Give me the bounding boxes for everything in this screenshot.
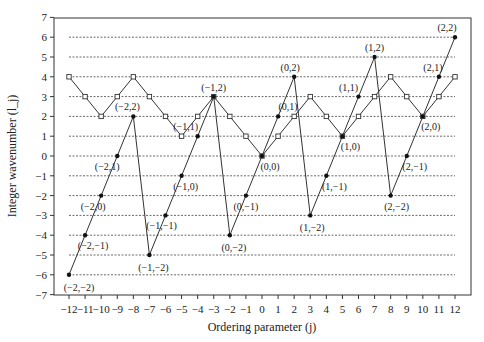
point-label: (−2,1) [95,161,120,173]
y-tick-label: −5 [35,249,47,261]
square-marker [83,94,87,98]
x-tick-label: 6 [356,303,362,315]
dot-marker [276,114,280,118]
x-tick-label: 7 [372,303,378,315]
x-tick-label: 3 [308,303,314,315]
dot-marker [372,55,376,59]
point-label: (−2,−1) [78,240,108,252]
x-tick-label: 4 [324,303,330,315]
square-marker [292,114,296,118]
square-marker [388,75,392,79]
point-label: (0,−2) [221,242,246,254]
point-label: (−1,1) [173,121,198,133]
dot-marker [147,253,151,257]
point-label: (0,2) [281,62,300,74]
point-label: (−1,2) [201,82,226,94]
x-axis-title: Ordering parameter (j) [208,320,317,334]
point-label: (2,−2) [384,201,409,213]
point-label: (0,−1) [234,201,259,213]
x-tick-label: −5 [176,303,188,315]
square-marker [67,75,71,79]
dot-marker [308,213,312,217]
point-label: (0,1) [278,101,297,113]
square-marker [131,75,135,79]
x-tick-label: −9 [111,303,123,315]
square-marker [99,114,103,118]
y-tick-label: 0 [42,150,48,162]
x-tick-label: 11 [434,303,445,315]
y-axis-title: Integer wavenumber (l_j) [5,95,19,218]
square-marker [437,94,441,98]
point-label: (2,0) [421,121,440,133]
dot-marker [260,154,264,158]
x-tick-label: 8 [388,303,394,315]
dot-marker [292,75,296,79]
point-label: (1,0) [341,141,360,153]
dot-marker [195,134,199,138]
y-tick-label: −7 [35,289,47,301]
dot-marker [421,114,425,118]
y-tick-label: 3 [42,91,48,103]
y-tick-label: 2 [42,110,48,122]
y-tick-label: −1 [35,170,47,182]
dot-marker [437,75,441,79]
square-marker [179,134,183,138]
point-label: (1,−2) [300,222,325,234]
y-tick-label: 6 [42,31,48,43]
point-label: (−2,−2) [64,282,94,294]
y-tick-label: −3 [35,209,47,221]
point-label: (2,1) [423,62,442,74]
square-marker [163,114,167,118]
x-tick-label: 5 [340,303,346,315]
x-tick-label: −7 [144,303,156,315]
y-tick-label: 1 [42,130,48,142]
y-tick-label: −6 [35,269,47,281]
y-tick-label: −2 [35,190,47,202]
point-label: (−1,−1) [146,220,176,232]
x-tick-label: 2 [291,303,297,315]
square-marker [324,114,328,118]
y-tick-label: 5 [42,51,48,63]
square-marker [308,94,312,98]
point-label: (1,1) [339,82,358,94]
x-tick-label: 1 [275,303,281,315]
y-tick-label: −4 [35,229,47,241]
square-marker [115,94,119,98]
point-label: (0,0) [260,161,279,173]
point-label: (−2,0) [81,201,106,213]
square-marker [195,114,199,118]
dot-marker [356,94,360,98]
dot-marker [388,193,392,197]
square-marker [356,114,360,118]
dot-marker [340,134,344,138]
dot-marker [179,174,183,178]
square-marker [244,134,248,138]
chart: −7−6−5−4−3−2−101234567−12−11−10−9−8−7−6−… [0,0,484,342]
square-marker [147,94,151,98]
x-tick-label: 10 [417,303,429,315]
point-label: (1,−1) [322,181,347,193]
point-label: (−1,−2) [138,262,168,274]
dot-marker [228,233,232,237]
square-marker [453,75,457,79]
x-tick-label: 12 [450,303,461,315]
point-label: (−2,2) [115,101,140,113]
point-label: (−1,0) [173,181,198,193]
dot-marker [163,213,167,217]
x-tick-label: −6 [160,303,172,315]
dot-marker [83,233,87,237]
x-tick-label: −10 [93,303,111,315]
x-tick-label: −2 [224,303,236,315]
dot-marker [131,114,135,118]
dot-marker [324,174,328,178]
point-label: (2,2) [437,22,456,34]
dot-marker [115,154,119,158]
x-tick-label: −12 [60,303,77,315]
x-tick-label: −8 [127,303,139,315]
y-tick-label: 4 [42,71,48,83]
x-tick-label: 0 [259,303,265,315]
x-tick-label: 9 [404,303,410,315]
dot-marker [67,273,71,277]
dot-marker [244,193,248,197]
x-tick-label: −1 [240,303,252,315]
